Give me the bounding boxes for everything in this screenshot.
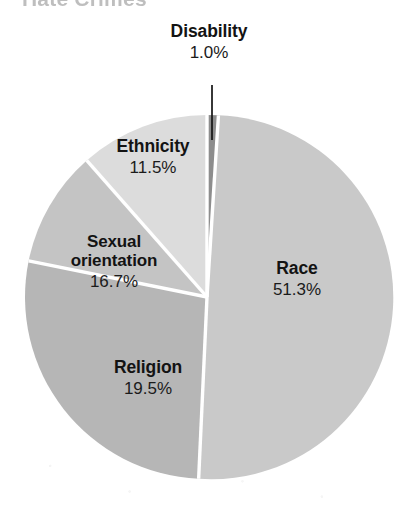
pie-label-ethnicity-name: Ethnicity — [83, 137, 223, 157]
pie-label-race-name: Race — [241, 259, 353, 279]
pie-label-disability: Disability 1.0% — [123, 22, 295, 62]
pie-label-sexual-orientation: Sexual orientation 16.7% — [38, 232, 190, 291]
pie-label-ethnicity: Ethnicity 11.5% — [83, 137, 223, 177]
pie-label-sexual-orientation-name-line2: orientation — [38, 251, 190, 270]
pie-label-race-value: 51.3% — [241, 280, 353, 299]
pie-label-race: Race 51.3% — [241, 259, 353, 299]
pie-label-religion-name: Religion — [78, 358, 218, 378]
pie-label-religion-value: 19.5% — [78, 379, 218, 398]
pie-label-sexual-orientation-value: 16.7% — [38, 272, 190, 291]
pie-label-disability-value: 1.0% — [123, 43, 295, 62]
pie-chart-figure: Hate Crimes Disability 1.0% Ethnicity 1 — [0, 0, 418, 512]
pie-label-ethnicity-value: 11.5% — [83, 158, 223, 177]
pie-label-disability-name: Disability — [123, 22, 295, 42]
pie-label-sexual-orientation-name-line1: Sexual — [38, 232, 190, 251]
pie-label-religion: Religion 19.5% — [78, 358, 218, 398]
